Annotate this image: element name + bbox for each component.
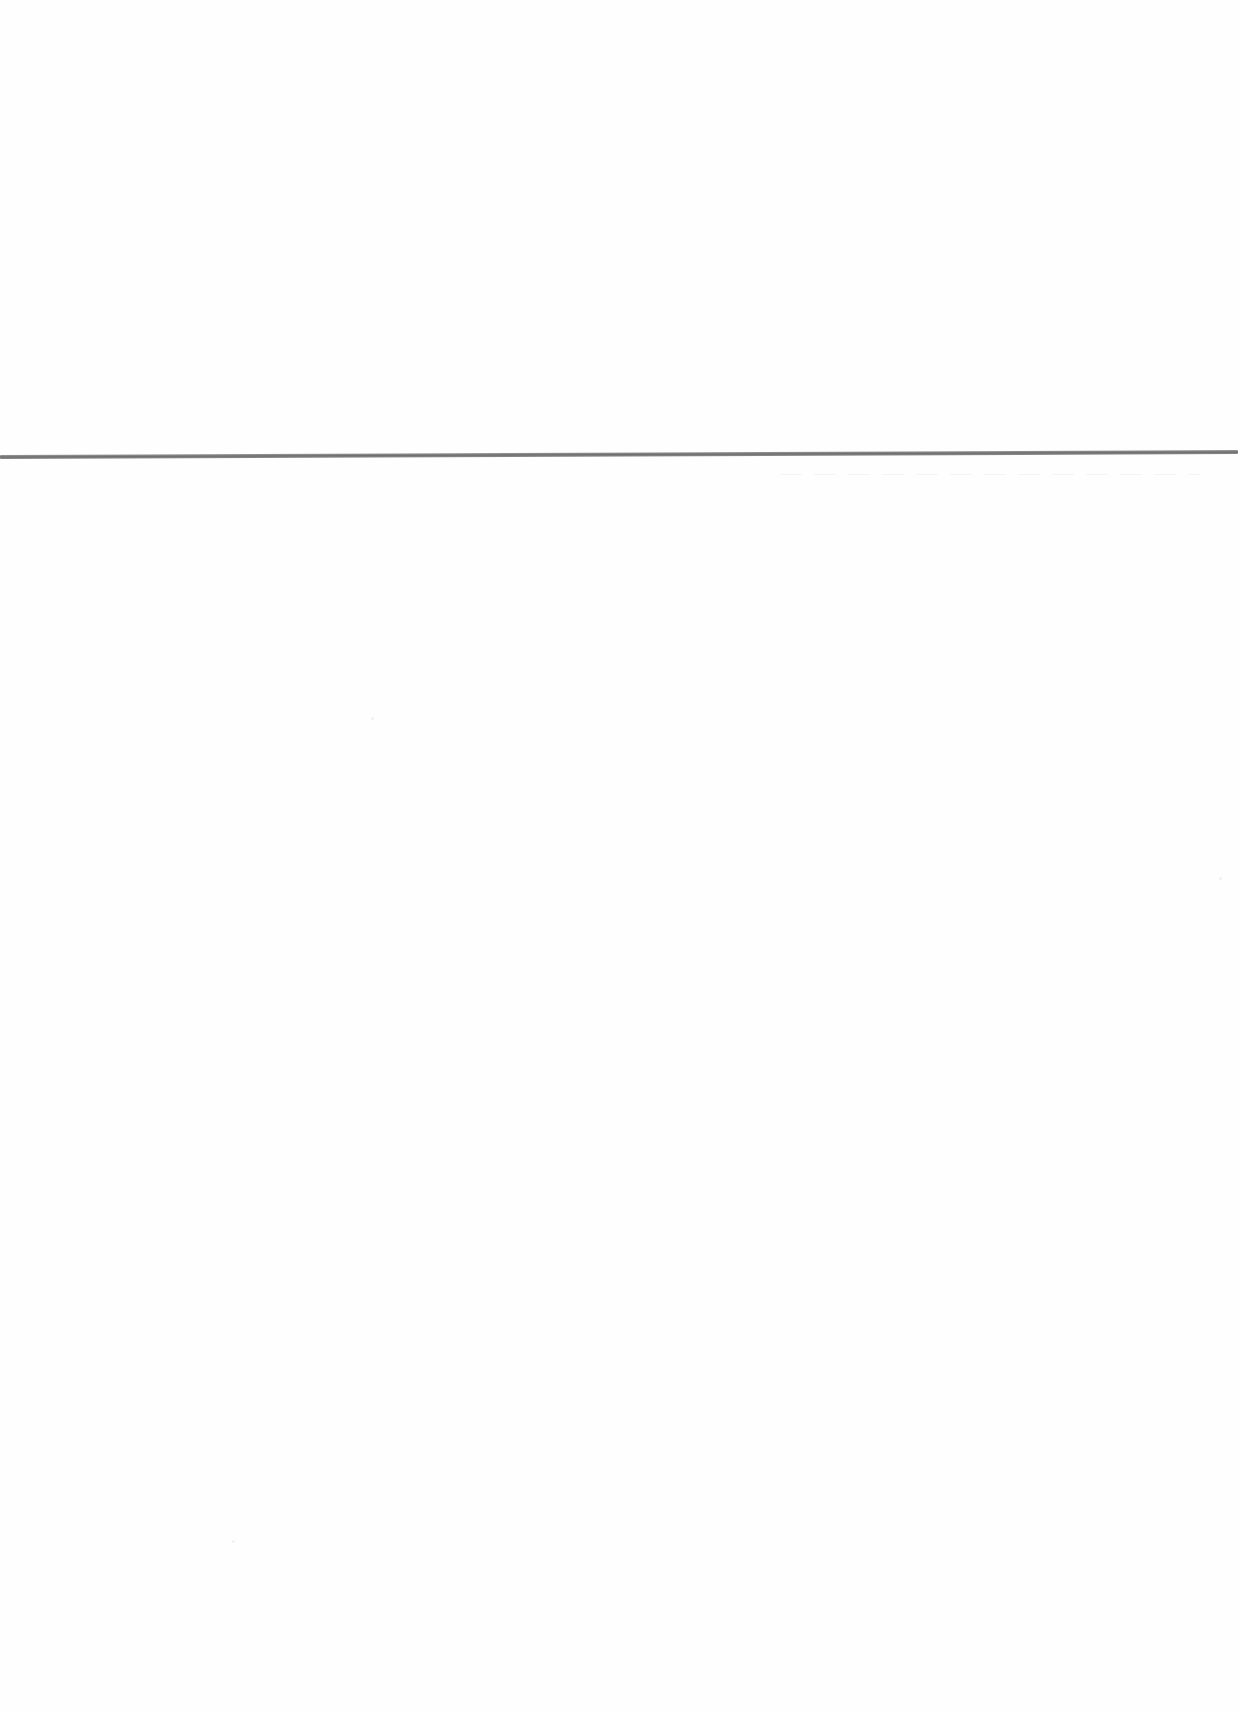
horizontal-rule	[0, 450, 1238, 459]
scan-speck	[232, 1540, 235, 1543]
scan-speck	[371, 717, 374, 720]
scan-bleed-through	[780, 474, 1200, 475]
scan-speck	[1219, 877, 1222, 880]
document-page	[0, 0, 1240, 1713]
